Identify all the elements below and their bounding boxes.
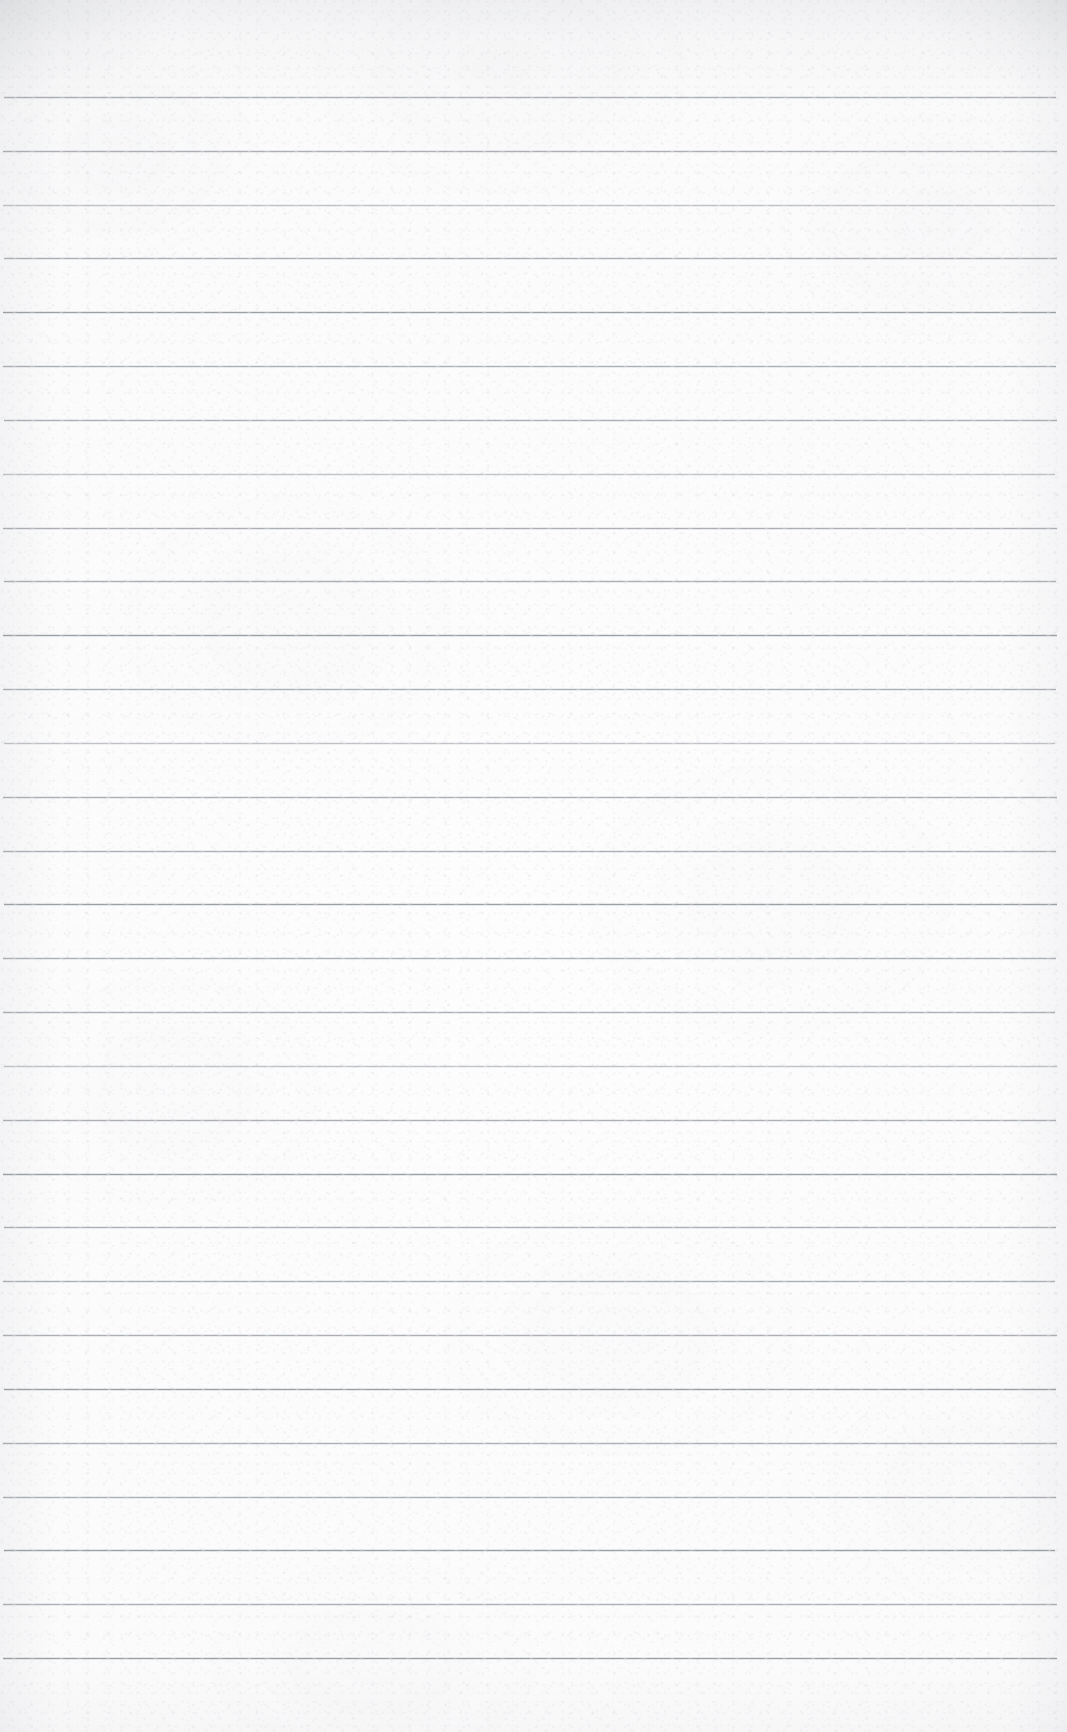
ruled-line — [4, 258, 1057, 259]
ruled-line — [4, 1066, 1057, 1067]
ruled-line — [3, 312, 1056, 313]
ruled-line — [3, 1443, 1057, 1444]
scanned-page — [0, 0, 1067, 1732]
ruled-line — [3, 635, 1057, 636]
ruled-line — [3, 689, 1056, 690]
ruled-line — [3, 1658, 1057, 1659]
ruled-line — [3, 205, 1055, 206]
ruled-line — [4, 97, 1056, 98]
ruled-line — [3, 851, 1056, 852]
ruled-line — [3, 958, 1056, 959]
ruled-line — [4, 1550, 1055, 1551]
ruled-line — [3, 1120, 1056, 1121]
ruled-line — [4, 1389, 1056, 1390]
ruled-line — [4, 743, 1055, 744]
ruled-line — [3, 528, 1057, 529]
ruled-line — [3, 1174, 1057, 1175]
ruled-line — [3, 1335, 1057, 1336]
ruled-line — [4, 904, 1057, 905]
ruled-line — [3, 1012, 1055, 1013]
ruled-line — [3, 1497, 1056, 1498]
ruled-line — [3, 151, 1057, 152]
ruled-line — [3, 1604, 1057, 1605]
ruled-line — [4, 581, 1056, 582]
ruled-lines-group — [0, 0, 1067, 1732]
ruled-line — [3, 1281, 1055, 1282]
ruled-line — [3, 474, 1055, 475]
ruled-line — [3, 366, 1056, 367]
ruled-line — [4, 1227, 1056, 1228]
ruled-line — [4, 420, 1057, 421]
ruled-line — [3, 797, 1057, 798]
